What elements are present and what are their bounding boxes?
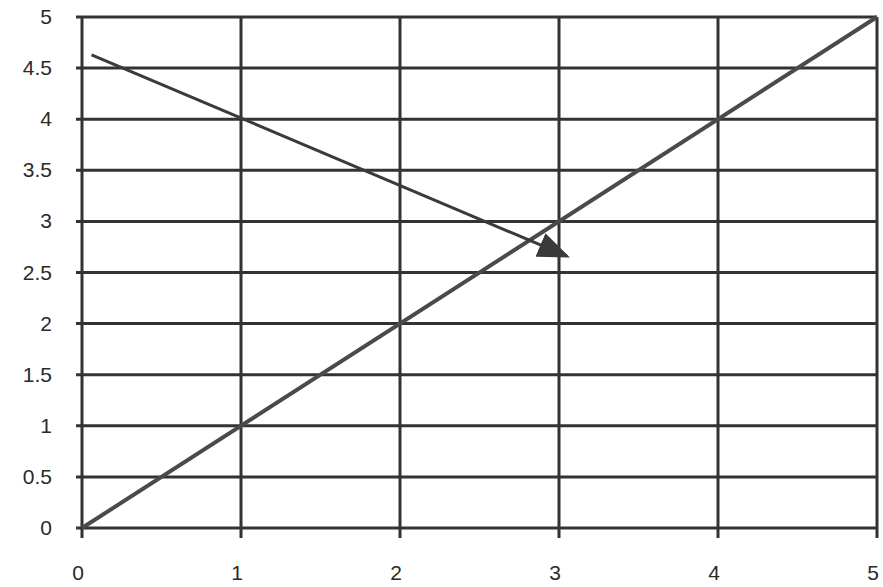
x-tick-label: 4 [708,561,720,584]
x-tick-label: 3 [549,561,561,584]
y-tick-label: 1 [40,414,52,437]
y-tick-label: 4 [40,107,52,130]
x-tick-label: 0 [72,561,84,584]
y-tick-label: 4.5 [23,56,52,79]
x-axis-tick-labels: 012345 [72,561,879,584]
y-tick-label: 0.5 [23,465,52,488]
x-tick-label: 2 [390,561,402,584]
x-tick-label: 1 [231,561,243,584]
y-tick-label: 5 [40,5,52,28]
y-tick-label: 2.5 [23,261,52,284]
arrow-line [92,55,567,256]
y-tick-label: 3.5 [23,158,52,181]
line-chart: 00.511.522.533.544.55 012345 [0,0,883,587]
y-axis-tick-labels: 00.511.522.533.544.55 [23,5,53,539]
y-tick-label: 1.5 [23,363,52,386]
y-tick-label: 2 [40,312,52,335]
x-tick-label: 5 [867,561,879,584]
y-tick-label: 0 [40,516,52,539]
y-tick-label: 3 [40,209,52,232]
